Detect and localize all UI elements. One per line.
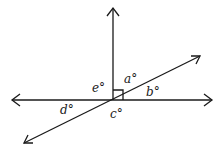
angle-label-e: e° <box>92 81 105 95</box>
angle-label-a: a° <box>124 72 137 86</box>
angle-label-d: d° <box>60 103 74 117</box>
angle-label-b: b° <box>146 85 160 99</box>
vertical-ray <box>107 8 119 100</box>
angle-diagram: a° b° c° d° e° <box>0 0 218 156</box>
angle-label-c: c° <box>110 107 123 121</box>
